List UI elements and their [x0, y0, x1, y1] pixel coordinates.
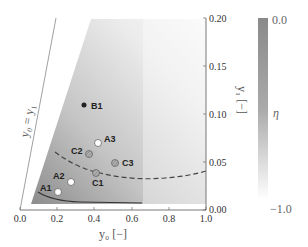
- point-B1: [82, 103, 87, 108]
- label-C1: C1: [92, 178, 104, 188]
- x-tick-2: 0.4: [88, 213, 101, 224]
- colorbar-max-label: 0.0: [272, 13, 287, 27]
- point-A2: [68, 179, 75, 186]
- x-tick-4: 0.8: [163, 213, 176, 224]
- x-tick-3: 0.6: [126, 213, 139, 224]
- colorbar-label: η: [273, 106, 279, 120]
- chart-canvas: y₀ = y₁ 0.0 0.2 0.4 0.6 0.8 1.0 y₀ [−] 0…: [0, 0, 308, 247]
- y-tick-2: 0.10: [209, 109, 227, 120]
- label-B1: B1: [91, 101, 103, 111]
- colorbar: [258, 18, 268, 200]
- point-C2: [86, 151, 93, 158]
- label-A2: A2: [53, 171, 65, 181]
- point-C1: [93, 170, 100, 177]
- label-A3: A3: [104, 134, 116, 144]
- x-ticks: [20, 207, 206, 210]
- shaded-region-fade: [143, 19, 206, 204]
- y-tick-4: 0.20: [209, 13, 227, 24]
- y-tick-0: 0.00: [209, 204, 227, 215]
- y-axis-label: y₁ [−]: [235, 86, 249, 114]
- x-tick-0: 0.0: [14, 213, 27, 224]
- x-axis-label: y₀ [−]: [99, 227, 127, 241]
- label-A1: A1: [40, 183, 52, 193]
- y-tick-1: 0.05: [209, 157, 227, 168]
- point-A3: [95, 140, 102, 147]
- point-A1: [55, 189, 62, 196]
- y-tick-3: 0.15: [209, 61, 227, 72]
- point-C3: [112, 160, 119, 167]
- colorbar-min-label: −1.0: [270, 202, 292, 216]
- label-C2: C2: [71, 146, 83, 156]
- label-C3: C3: [122, 158, 134, 168]
- x-tick-1: 0.2: [51, 213, 64, 224]
